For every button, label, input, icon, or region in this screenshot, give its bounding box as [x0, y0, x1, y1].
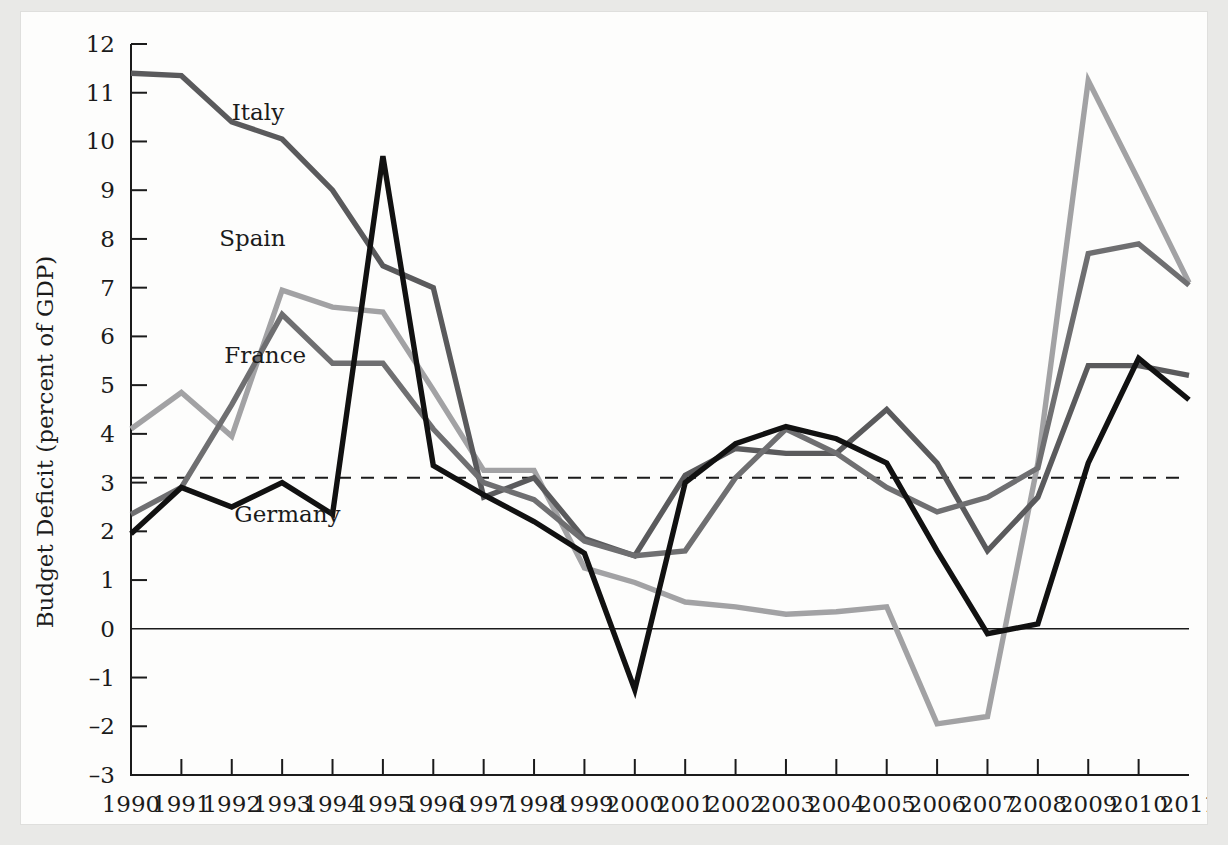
- y-tick-label: 0: [100, 616, 115, 642]
- x-axis-ticks: [181, 759, 1138, 775]
- x-tick-label: 2011: [1160, 791, 1207, 817]
- y-tick-label: 12: [86, 31, 115, 57]
- x-axis-tick-labels: 1990199119921993199419951996199719981999…: [102, 791, 1207, 817]
- y-tick-label: –3: [89, 762, 115, 788]
- plot-frame: [131, 44, 1189, 775]
- series-line-italy: [131, 73, 1189, 555]
- budget-deficit-line-chart: 1211109876543210–1–2–3 19901991199219931…: [21, 12, 1207, 824]
- series-label-spain: Spain: [219, 225, 286, 251]
- series-line-germany: [131, 156, 1189, 690]
- y-tick-label: 2: [100, 518, 115, 544]
- series-label-italy: Italy: [232, 99, 284, 125]
- series-label-germany: Germany: [234, 501, 340, 527]
- y-tick-label: 6: [100, 323, 115, 349]
- y-tick-label: 9: [100, 177, 115, 203]
- y-tick-label: 3: [100, 470, 115, 496]
- y-axis-title: Budget Deficit (percent of GDP): [32, 256, 58, 629]
- y-tick-label: –2: [89, 713, 115, 739]
- y-tick-label: 11: [86, 80, 115, 106]
- y-axis-tick-labels: 1211109876543210–1–2–3: [86, 31, 115, 788]
- y-tick-label: 7: [100, 275, 115, 301]
- series-inline-labels: ItalySpainFranceGermany: [219, 99, 340, 527]
- y-tick-label: 4: [100, 421, 115, 447]
- y-axis-ticks: [131, 44, 147, 775]
- y-tick-label: 10: [86, 128, 115, 154]
- series-label-france: France: [224, 342, 306, 368]
- chart-canvas: 1211109876543210–1–2–3 19901991199219931…: [21, 12, 1207, 824]
- series-paths: [131, 73, 1189, 724]
- y-tick-label: 8: [100, 226, 115, 252]
- figure-card: 1211109876543210–1–2–3 19901991199219931…: [21, 12, 1207, 824]
- y-tick-label: 5: [100, 372, 115, 398]
- axis-frame: [131, 44, 1189, 775]
- y-tick-label: 1: [100, 567, 115, 593]
- y-tick-label: –1: [89, 665, 115, 691]
